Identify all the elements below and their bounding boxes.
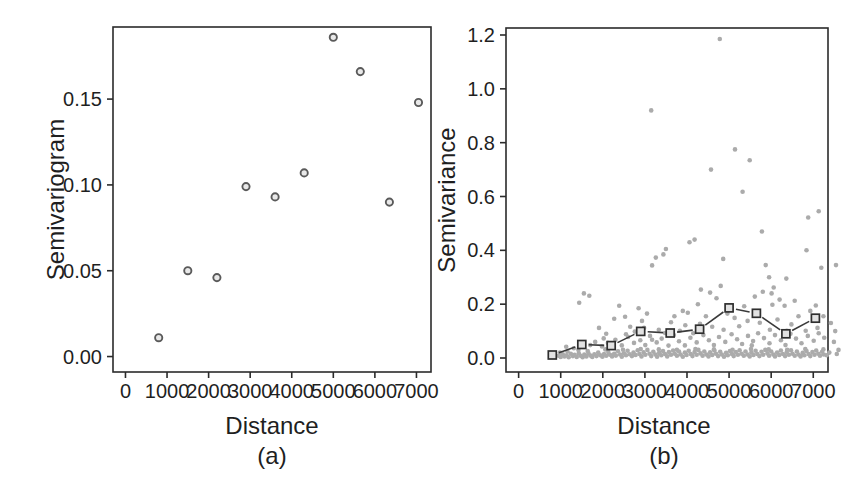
cloud-point — [621, 347, 626, 352]
y-tick-label: 0.8 — [467, 132, 495, 154]
cloud-point — [709, 167, 714, 172]
cloud-point — [742, 304, 747, 309]
cloud-point — [666, 343, 671, 348]
cloud-point — [623, 315, 628, 320]
cloud-point — [808, 309, 813, 314]
cloud-point — [802, 353, 807, 358]
cloud-point — [777, 297, 782, 302]
cloud-point — [677, 339, 682, 344]
cloud-point — [762, 336, 767, 341]
cloud-point — [745, 319, 750, 324]
cloud-point — [593, 340, 598, 345]
cloud-point — [763, 263, 768, 268]
cloud-point — [699, 287, 704, 292]
cloud-point — [758, 320, 763, 325]
cloud-point — [684, 353, 689, 358]
cloud-point — [597, 326, 602, 331]
cloud-point — [717, 335, 722, 340]
cloud-point — [643, 353, 648, 358]
cloud-point — [784, 276, 789, 281]
cloud-point — [661, 252, 666, 257]
cloud-point — [827, 350, 832, 355]
x-tick-label: 0 — [513, 380, 524, 402]
cloud-point — [654, 255, 659, 260]
cloud-point — [737, 324, 742, 329]
data-point — [242, 183, 249, 190]
cloud-point — [649, 354, 654, 359]
cloud-point — [771, 285, 776, 290]
mean-square-marker — [607, 342, 615, 350]
cloud-point — [836, 348, 841, 353]
cloud-point — [822, 336, 827, 341]
panel-caption: (a) — [257, 442, 286, 469]
cloud-point — [760, 229, 765, 234]
cloud-point — [696, 302, 701, 307]
cloud-point — [730, 347, 735, 352]
mean-square-marker — [637, 327, 645, 335]
cloud-point — [794, 336, 799, 341]
cloud-point — [617, 304, 622, 309]
cloud-point — [659, 336, 664, 341]
cloud-point — [694, 340, 699, 345]
data-point — [330, 34, 337, 41]
cloud-point — [632, 341, 637, 346]
cloud-point — [770, 302, 775, 307]
cloud-point — [747, 158, 752, 163]
cloud-point — [650, 263, 655, 268]
cloud-point — [811, 339, 816, 344]
cloud-point — [729, 332, 734, 337]
x-tick-label: 4000 — [665, 380, 710, 402]
y-tick-label: 0.6 — [467, 186, 495, 208]
x-tick-label: 5000 — [311, 380, 356, 402]
cloud-point — [733, 147, 738, 152]
cloud-point — [814, 303, 819, 308]
cloud-point — [612, 316, 617, 321]
cloud-point — [624, 332, 629, 337]
mean-line-segment — [589, 345, 604, 346]
binned-semivariogram-points — [155, 34, 422, 342]
cloud-point — [775, 317, 780, 322]
cloud-point — [726, 353, 731, 358]
cloud-point — [821, 314, 826, 319]
x-tick-label: 6000 — [353, 380, 398, 402]
cloud-point — [636, 306, 641, 311]
cloud-point — [769, 291, 774, 296]
mean-square-marker — [811, 314, 819, 322]
cloud-point — [816, 331, 821, 336]
cloud-point — [669, 320, 674, 325]
cloud-point — [799, 341, 804, 346]
cloud-point — [687, 240, 692, 245]
cloud-point — [832, 340, 837, 345]
x-tick-label: 5000 — [707, 380, 752, 402]
cloud-point — [718, 37, 723, 42]
cloud-point — [806, 215, 811, 220]
y-tick-label: 0.2 — [467, 293, 495, 315]
cloud-point — [767, 341, 772, 346]
cloud-point — [829, 321, 834, 326]
y-tick-label: 1.2 — [467, 24, 495, 46]
cloud-point — [681, 309, 686, 314]
cloud-point — [767, 354, 772, 359]
cloud-point — [815, 326, 820, 331]
cloud-point — [638, 347, 643, 352]
mean-square-marker — [548, 351, 556, 359]
cloud-point — [785, 347, 790, 352]
cloud-point — [601, 336, 606, 341]
data-point — [272, 193, 279, 200]
cloud-point — [821, 347, 826, 352]
cloud-point — [707, 338, 712, 343]
mean-square-marker — [696, 325, 704, 333]
cloud-point — [628, 325, 633, 330]
data-point — [184, 267, 191, 274]
cloud-point — [732, 316, 737, 321]
x-tick-label: 7000 — [394, 380, 439, 402]
cloud-point — [749, 347, 754, 352]
cloud-point — [761, 290, 766, 295]
cloud-point — [577, 301, 582, 306]
cloud-point — [816, 209, 821, 214]
x-tick-label: 1000 — [538, 380, 583, 402]
cloud-point — [751, 339, 756, 344]
x-tick-label: 6000 — [749, 380, 794, 402]
x-tick-label: 1000 — [145, 380, 190, 402]
cloud-point — [604, 332, 609, 337]
